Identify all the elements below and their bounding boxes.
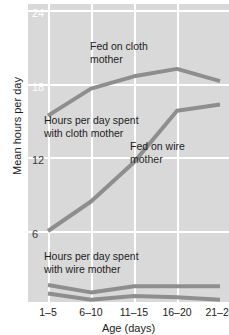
series-line-hours-with-wire-mother-upper [48,285,220,292]
y-axis-label: Mean hours per day [11,71,23,181]
annotation-line-1: Fed on wire [130,140,185,153]
xtick-label-5: 21–25 [200,306,229,318]
annotation-hours-with-cloth-mother: Hours per day spent with cloth mother [44,114,139,139]
xtick-label-1: 1–5 [28,306,68,318]
annotation-line-1: Hours per day spent [44,114,139,127]
annotation-line-1: Fed on cloth [90,40,148,53]
series-line-hours-with-wire-mother-lower [48,294,220,300]
ytick-label-6: 6 [32,229,38,240]
ytick-label-24: 24 [32,8,44,19]
annotation-fed-on-wire-mother: Fed on wire mother [130,140,185,165]
annotation-line-2: mother [90,53,148,66]
annotation-line-1: Hours per day spent [44,250,139,263]
ytick-label-18: 18 [32,82,44,93]
xtick-label-4: 16–20 [157,306,197,318]
ytick-label-12: 12 [32,155,44,166]
annotation-fed-on-cloth-mother: Fed on cloth mother [90,40,148,65]
annotation-line-2: with cloth mother [44,127,139,140]
annotation-hours-with-wire-mother: Hours per day spent with wire mother [44,250,139,275]
x-axis-label: Age (days) [28,322,229,334]
xtick-label-2: 6–10 [71,306,111,318]
plot-panel: Fed on cloth mother Hours per day spent … [28,4,229,302]
figure: Fed on cloth mother Hours per day spent … [0,0,229,335]
annotation-line-2: mother [130,153,185,166]
annotation-line-2: with wire mother [44,263,139,276]
xtick-label-3: 11–15 [114,306,154,318]
